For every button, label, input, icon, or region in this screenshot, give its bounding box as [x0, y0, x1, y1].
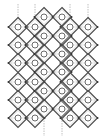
vertex-dot: [34, 53, 36, 55]
circle-node: [59, 106, 65, 112]
circle-node: [41, 51, 47, 57]
vertex-dot: [71, 35, 73, 37]
circle-node: [67, 97, 73, 103]
vertex-dot: [71, 53, 73, 55]
vertex-dot: [71, 16, 73, 18]
vertex-dot: [25, 44, 27, 46]
circle-node: [41, 106, 47, 112]
vertex-dot: [25, 81, 27, 83]
vertex-dot: [97, 62, 99, 64]
vertex-dot: [52, 16, 54, 18]
circle-node: [85, 79, 91, 85]
circle-node: [59, 14, 65, 20]
circle-node: [67, 115, 73, 121]
vertex-dot: [8, 117, 10, 119]
circle-node: [59, 69, 65, 75]
circle-node: [59, 88, 65, 94]
circle-node: [32, 79, 38, 85]
circle-node: [85, 24, 91, 30]
vertex-dot: [52, 108, 54, 110]
circle-node: [85, 60, 91, 66]
circle-node: [32, 97, 38, 103]
vertex-dot: [78, 44, 80, 46]
diamond-lattice-diagram: [0, 0, 108, 138]
circle-node: [15, 42, 21, 48]
vertex-dot: [97, 26, 99, 28]
circle-node: [59, 51, 65, 57]
circle-node: [85, 115, 91, 121]
vertex-dot: [25, 99, 27, 101]
vertex-dot: [25, 26, 27, 28]
circle-node: [67, 60, 73, 66]
vertex-dot: [8, 99, 10, 101]
vertex-dot: [78, 62, 80, 64]
vertex-dot: [71, 71, 73, 73]
vertex-dot: [25, 62, 27, 64]
vertex-dot: [97, 44, 99, 46]
vertex-dot: [52, 90, 54, 92]
vertex-dot: [97, 81, 99, 83]
circle-node: [85, 42, 91, 48]
circle-node: [32, 60, 38, 66]
circle-node: [32, 24, 38, 30]
vertex-dot: [71, 90, 73, 92]
vertex-dot: [34, 35, 36, 37]
circle-node: [41, 88, 47, 94]
circle-node: [41, 69, 47, 75]
circle-node: [15, 79, 21, 85]
circle-node: [15, 97, 21, 103]
circle-node: [59, 33, 65, 39]
vertex-dot: [78, 81, 80, 83]
vertex-dot: [8, 62, 10, 64]
vertex-dot: [34, 108, 36, 110]
vertex-dot: [52, 71, 54, 73]
circle-node: [67, 79, 73, 85]
vertex-dot: [78, 99, 80, 101]
circle-node: [15, 24, 21, 30]
circle-node: [15, 60, 21, 66]
vertex-dot: [52, 53, 54, 55]
vertex-dot: [71, 108, 73, 110]
vertex-dot: [34, 16, 36, 18]
vertex-dot: [8, 81, 10, 83]
vertex-dot: [52, 35, 54, 37]
circle-node: [41, 14, 47, 20]
circle-node: [67, 42, 73, 48]
vertex-dot: [8, 44, 10, 46]
vertex-dot: [97, 117, 99, 119]
vertex-dot: [8, 26, 10, 28]
circle-node: [67, 24, 73, 30]
vertex-dot: [78, 117, 80, 119]
circle-node: [32, 42, 38, 48]
circle-node: [41, 33, 47, 39]
vertex-dot: [97, 99, 99, 101]
vertex-dot: [25, 117, 27, 119]
vertex-dot: [34, 90, 36, 92]
vertex-dot: [78, 26, 80, 28]
circle-node: [85, 97, 91, 103]
circle-node: [32, 115, 38, 121]
circle-node: [15, 115, 21, 121]
vertex-dot: [34, 71, 36, 73]
